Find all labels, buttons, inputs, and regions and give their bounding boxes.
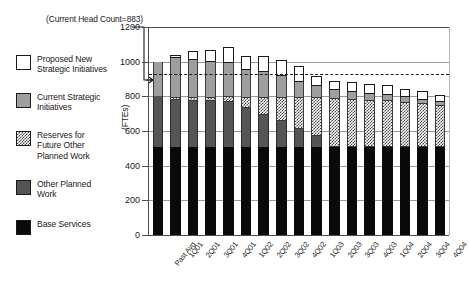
bar-segment — [364, 94, 375, 100]
legend-label-current: Current Strategic Initiatives — [37, 92, 100, 113]
y-axis-tick — [142, 62, 148, 63]
legend-item-base: Base Services — [16, 219, 91, 235]
bar-2q03 — [329, 27, 340, 235]
bar-segment — [188, 97, 199, 100]
bar-segment — [188, 51, 199, 60]
bar-segment — [311, 147, 322, 235]
x-axis-label: 3Q02 — [292, 240, 310, 260]
bar-2q04 — [400, 27, 411, 235]
bar-segment — [382, 147, 393, 235]
bar-segment — [170, 58, 181, 97]
bar-segment — [276, 121, 287, 146]
y-axis-tick — [142, 27, 148, 28]
x-axis-label: 1Q03 — [328, 240, 346, 260]
y-axis-tick-label: 200 — [125, 195, 140, 205]
legend-label-new: Proposed New Strategic Initiatives — [37, 54, 107, 75]
bar-segment — [258, 115, 269, 147]
bar-segment — [382, 85, 393, 95]
bar-segment — [205, 97, 216, 100]
y-axis-tick — [142, 131, 148, 132]
bar-segment — [294, 82, 305, 98]
bar-segment — [329, 98, 340, 147]
x-axis-label: 4Q02 — [310, 240, 328, 260]
bar-segment — [382, 100, 393, 147]
bar-segment — [205, 147, 216, 235]
y-axis-tick-label: 0 — [135, 230, 140, 240]
y-axis-title: (FTEs) — [120, 105, 130, 130]
bar-segment — [400, 97, 411, 101]
bar-segment — [241, 56, 252, 71]
bar-1q02 — [241, 27, 252, 235]
bar-segment — [205, 50, 216, 61]
bar-segment — [294, 129, 305, 146]
dark-gray-square-icon — [16, 180, 31, 195]
bar-past-avg — [153, 27, 164, 235]
bar-segment — [364, 147, 375, 235]
bar-segment — [435, 95, 446, 103]
reference-line-headcount — [149, 74, 449, 75]
bar-segment — [258, 72, 269, 97]
bar-segment — [417, 147, 428, 235]
x-axis-label: 4Q03 — [381, 240, 399, 260]
bar-segment — [223, 147, 234, 235]
bar-segment — [241, 147, 252, 235]
bar-3q01 — [205, 27, 216, 235]
bar-segment — [223, 47, 234, 63]
bar-segment — [347, 82, 358, 92]
bar-segment — [347, 147, 358, 235]
y-axis-tick — [142, 96, 148, 97]
y-axis-tick — [142, 166, 148, 167]
x-axis-label: 1Q02 — [257, 240, 275, 260]
legend-label-base: Base Services — [37, 219, 91, 229]
x-axis-label: 2Q04 — [416, 240, 434, 260]
x-axis-label: 3Q03 — [363, 240, 381, 260]
bar-3q03 — [347, 27, 358, 235]
bar-segment — [347, 92, 358, 99]
legend-label-reserve: Reserves for Future Other Planned Work — [37, 130, 90, 161]
bar-segment — [258, 147, 269, 235]
bar-segment — [311, 86, 322, 97]
bar-segment — [417, 91, 428, 100]
y-axis-tick — [142, 200, 148, 201]
bar-segment — [276, 97, 287, 121]
bar-segment — [153, 147, 164, 235]
bar-segment — [417, 103, 428, 146]
x-axis-label: 3Q01 — [222, 240, 240, 260]
bar-4q03 — [364, 27, 375, 235]
legend-item-current: Current Strategic Initiatives — [16, 92, 100, 113]
bar-2q01 — [188, 27, 199, 235]
y-axis-tick-label: 1000 — [120, 57, 140, 67]
x-axis-label: 4Q04 — [451, 240, 469, 260]
bar-1q03 — [311, 27, 322, 235]
bar-segment — [294, 97, 305, 129]
bar-segment — [170, 100, 181, 147]
bar-segment — [329, 90, 340, 98]
bar-segment — [364, 100, 375, 147]
y-axis-tick-label: 400 — [125, 161, 140, 171]
x-axis-label: 1Q04 — [398, 240, 416, 260]
bar-segment — [170, 97, 181, 100]
bar-segment — [223, 96, 234, 102]
x-axis-label: 2Q01 — [204, 240, 222, 260]
bar-segment — [329, 81, 340, 91]
bar-segment — [400, 89, 411, 98]
legend-label-other: Other Planned Work — [37, 179, 91, 200]
bar-2q02 — [258, 27, 269, 235]
bar-segment — [170, 55, 181, 58]
legend-item-reserve: Reserves for Future Other Planned Work — [16, 130, 90, 161]
bar-segment — [223, 102, 234, 146]
bar-segment — [276, 76, 287, 98]
bar-segment — [382, 95, 393, 100]
legend-item-new: Proposed New Strategic Initiatives — [16, 54, 107, 75]
x-axis-label: 2Q03 — [345, 240, 363, 260]
bar-4q01 — [223, 27, 234, 235]
bar-segment — [311, 76, 322, 86]
bar-segment — [347, 99, 358, 147]
bar-segment — [311, 136, 322, 146]
y-axis-tick-label: 1200 — [120, 22, 140, 32]
bar-segment — [364, 84, 375, 94]
black-square-icon — [16, 220, 31, 235]
bar-segment — [417, 100, 428, 103]
bar-segment — [400, 102, 411, 147]
